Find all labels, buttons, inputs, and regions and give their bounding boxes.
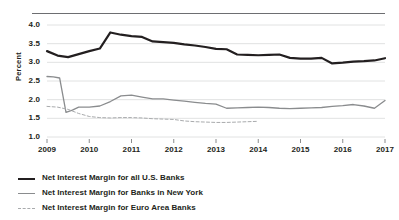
legend-line-sample-ny-icon: [18, 188, 35, 197]
legend-item-us-banks: Net Interest Margin for all U.S. Banks: [18, 170, 393, 185]
legend-label-us-banks: Net Interest Margin for all U.S. Banks: [42, 173, 184, 182]
legend-item-ny-banks: Net Interest Margin for Banks in New Yor…: [18, 185, 393, 200]
series-line-1: [47, 77, 385, 113]
legend-label-ny-banks: Net Interest Margin for Banks in New Yor…: [42, 188, 203, 197]
legend-label-euro-banks: Net Interest Margin for Euro Area Banks: [42, 203, 196, 212]
series-line-0: [47, 32, 385, 63]
legend-line-sample-euro-icon: [18, 203, 35, 212]
legend-item-euro-banks: Net Interest Margin for Euro Area Banks: [18, 200, 393, 215]
legend-line-sample-us-icon: [18, 173, 35, 182]
chart-legend: Net Interest Margin for all U.S. Banks N…: [18, 170, 393, 215]
